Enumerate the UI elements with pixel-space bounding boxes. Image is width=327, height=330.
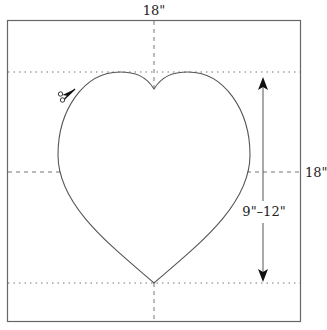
heart-pattern-diagram: 18" 18" 9"–12": [0, 0, 327, 330]
heart-height-label: 9"–12": [242, 204, 285, 219]
right-height-label: 18": [305, 165, 327, 180]
top-width-label: 18": [143, 3, 166, 18]
paper-frame: [8, 21, 301, 322]
heart-outline: [58, 72, 250, 283]
